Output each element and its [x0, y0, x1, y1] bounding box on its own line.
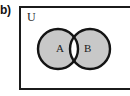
venn-diagram-figure: b) U A B [0, 0, 130, 96]
venn-circles [36, 26, 112, 72]
universal-set-label: U [27, 11, 36, 24]
part-label: b) [0, 3, 11, 17]
set-b-label: B [84, 43, 91, 54]
set-a-label: A [56, 43, 64, 54]
